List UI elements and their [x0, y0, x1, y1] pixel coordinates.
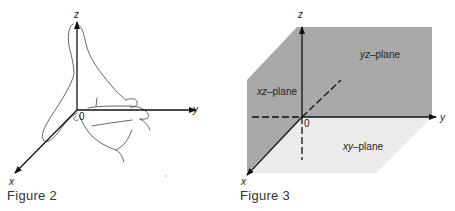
figure-3-planes — [247, 27, 432, 175]
figure-2-caption: Figure 2 — [7, 188, 57, 203]
fig2-z-axis-label: z — [74, 10, 79, 20]
yz-plane-label: yz–plane — [360, 50, 400, 60]
fig2-x-axis-label: x — [9, 177, 14, 187]
figure-2-axes — [15, 22, 196, 173]
fig2-origin-label: 0 — [79, 112, 85, 122]
fig3-x-axis-label: x — [241, 177, 246, 187]
xz-plane-label: xz–plane — [257, 87, 297, 97]
fig3-origin-label: 0 — [304, 119, 310, 129]
xy-plane-label: xy–plane — [343, 142, 383, 152]
figure-3-caption: Figure 3 — [240, 188, 290, 203]
fig3-y-axis-label: y — [440, 113, 445, 123]
fig3-z-axis-label: z — [298, 10, 303, 20]
hand-sketch — [42, 24, 150, 162]
figure-2-drawing — [0, 0, 455, 211]
fig2-y-axis-label: y — [193, 105, 198, 115]
